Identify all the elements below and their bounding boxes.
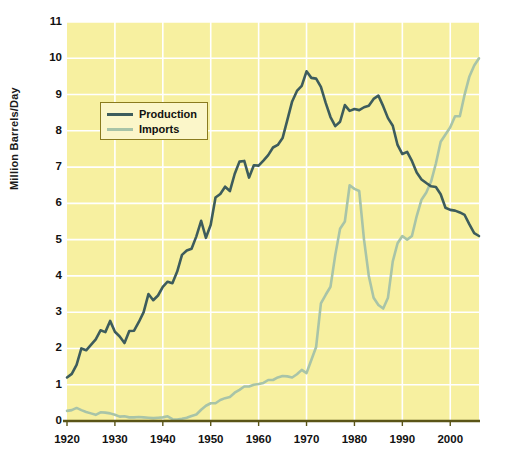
legend-swatch-imports-icon <box>107 128 133 132</box>
chart-legend: Production Imports <box>100 102 208 140</box>
legend-item-imports: Imports <box>107 122 202 137</box>
legend-label-production: Production <box>139 109 197 120</box>
oil-production-imports-chart: Million Barrels/Day 01234567891011 19201… <box>0 0 505 460</box>
x-axis-tick-label: 2000 <box>420 433 480 445</box>
legend-label-imports: Imports <box>139 124 179 135</box>
x-axis-tick-labels: 192019301940195019601970198019902000 <box>0 0 505 460</box>
legend-item-production: Production <box>107 107 202 122</box>
legend-swatch-production-icon <box>107 113 133 117</box>
